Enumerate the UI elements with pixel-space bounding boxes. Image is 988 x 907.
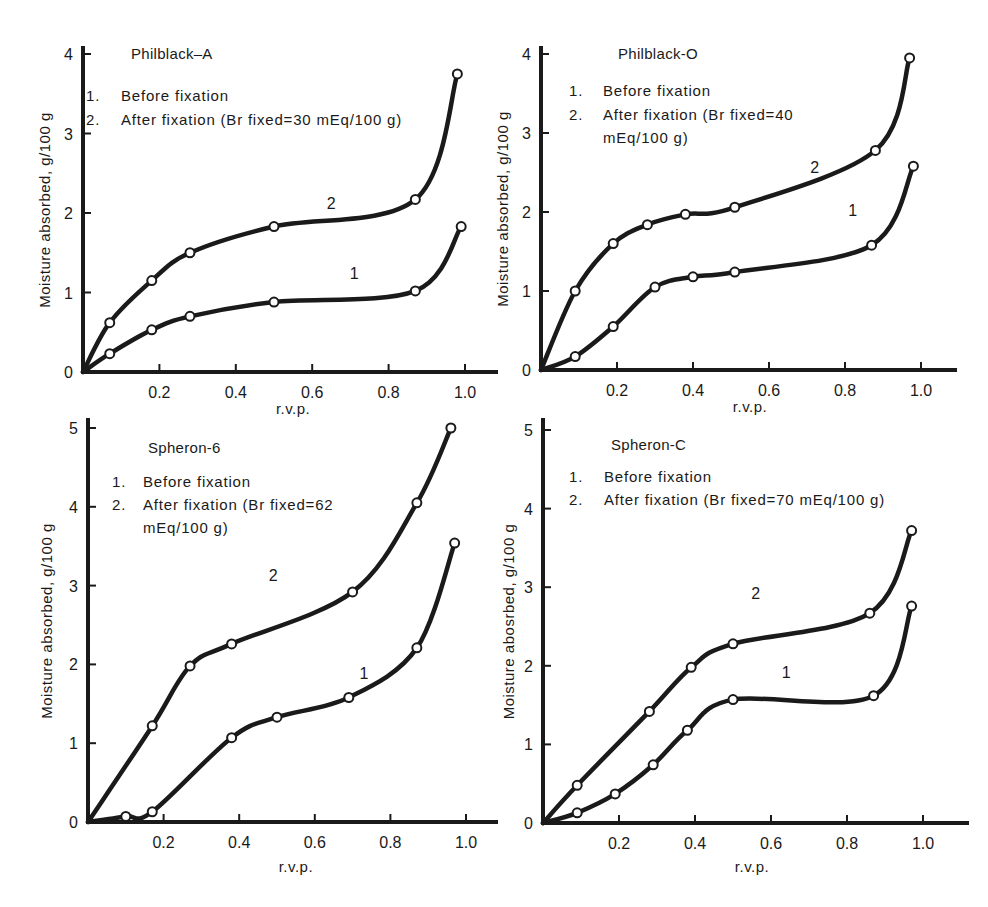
x-axis-label: r.v.p. [735, 858, 769, 875]
x-tick-label: 0.4 [228, 834, 250, 851]
y-tick-label: 4 [522, 46, 531, 63]
data-point-marker [609, 322, 618, 331]
data-point-marker [273, 713, 282, 722]
legend-item-before: Before fixation [143, 473, 251, 490]
x-tick-label: 0.8 [836, 835, 858, 852]
data-point-marker [185, 248, 194, 257]
data-point-marker [105, 349, 114, 358]
legend-item-after: After fixation (Br fixed=40 [603, 106, 793, 123]
legend-item-before: Before fixation [604, 468, 712, 485]
data-point-marker [683, 726, 692, 735]
y-tick-label: 2 [64, 205, 73, 222]
data-point-marker [121, 812, 130, 821]
data-point-marker [909, 162, 918, 171]
data-point-marker [609, 239, 618, 248]
legend-item-after: After fixation (Br fixed=62 [143, 496, 333, 513]
y-tick-label: 0 [69, 814, 78, 831]
y-tick-label: 2 [69, 656, 78, 673]
data-point-marker [453, 69, 462, 78]
curve-label-1: 1 [782, 664, 791, 681]
y-axis-label: Moisture absorbed, g/100 g [494, 111, 511, 307]
legend-number-2: 2. [569, 491, 583, 508]
y-tick-label: 5 [524, 422, 533, 439]
x-tick-label: 0.6 [301, 384, 323, 401]
legend-number-1: 1. [86, 87, 100, 104]
panel-spheron-c: Spheron-C 1. 2. Before fixation After fi… [500, 420, 967, 875]
y-tick-label: 1 [69, 735, 78, 752]
data-point-marker [148, 721, 157, 730]
panel-spheron-6: Spheron-6 1. 2. Before fixation After fi… [38, 420, 496, 875]
data-point-marker [185, 312, 194, 321]
curve-label-1: 1 [848, 202, 857, 219]
y-tick-label: 0 [522, 362, 531, 379]
x-tick-label: 0.4 [684, 835, 706, 852]
x-tick-label: 0.4 [225, 384, 247, 401]
curve-label-1: 1 [350, 265, 359, 282]
y-tick-label: 3 [64, 126, 73, 143]
x-tick-label: 0.8 [834, 382, 856, 399]
x-tick-label: 0.6 [760, 835, 782, 852]
y-tick-label: 1 [64, 285, 73, 302]
legend-number-2: 2. [112, 496, 126, 513]
data-point-marker [611, 789, 620, 798]
x-tick-label: 1.0 [454, 384, 476, 401]
x-tick-label: 0.2 [606, 382, 628, 399]
data-point-marker [730, 268, 739, 277]
data-point-marker [411, 286, 420, 295]
y-tick-label: 2 [522, 204, 531, 221]
curve-label-1: 1 [359, 665, 368, 682]
legend-item-before: Before fixation [121, 87, 229, 104]
data-point-marker [457, 222, 466, 231]
x-tick-label: 0.8 [379, 834, 401, 851]
y-tick-label: 2 [524, 658, 533, 675]
data-point-marker [412, 498, 421, 507]
data-point-marker [227, 733, 236, 742]
data-point-marker [905, 53, 914, 62]
data-point-marker [412, 643, 421, 652]
data-point-marker [907, 602, 916, 611]
y-tick-label: 5 [69, 420, 78, 437]
x-tick-label: 0.2 [608, 835, 630, 852]
panel-philblack-a: Philblack–A 1. 2. Before fixation After … [36, 45, 496, 417]
x-tick-label: 0.8 [377, 384, 399, 401]
panel-title: Philblack-O [618, 45, 698, 62]
data-point-marker [729, 639, 738, 648]
data-point-marker [227, 639, 236, 648]
data-point-marker [446, 424, 455, 433]
data-point-marker [907, 526, 916, 535]
data-point-marker [730, 203, 739, 212]
series-curve-1 [543, 606, 912, 823]
curve-label-2: 2 [269, 567, 278, 584]
y-tick-label: 3 [524, 579, 533, 596]
data-point-marker [105, 318, 114, 327]
y-axis-label: Moisture abosrbed, g/100 g [500, 524, 517, 720]
data-point-marker [643, 220, 652, 229]
x-tick-label: 0.4 [682, 382, 704, 399]
data-point-marker [344, 693, 353, 702]
legend-item-after-cont: mEq/100 g) [603, 129, 689, 146]
y-tick-label: 4 [69, 499, 78, 516]
data-point-marker [348, 587, 357, 596]
data-point-marker [411, 195, 420, 204]
data-point-marker [148, 807, 157, 816]
data-point-marker [270, 298, 279, 307]
panel-title: Philblack–A [131, 45, 213, 62]
x-axis-label: r.v.p. [276, 400, 310, 417]
series-curve-1 [88, 543, 455, 822]
legend-number-2: 2. [86, 111, 100, 128]
data-point-marker [869, 691, 878, 700]
data-point-marker [645, 707, 654, 716]
data-point-marker [689, 272, 698, 281]
x-axis-label: r.v.p. [733, 398, 767, 415]
legend-item-after: After fixation (Br fixed=70 mEq/100 g) [604, 491, 885, 508]
data-point-marker [270, 222, 279, 231]
x-tick-label: 1.0 [910, 382, 932, 399]
legend-number-1: 1. [112, 473, 126, 490]
data-point-marker [147, 325, 156, 334]
legend-number-2: 2. [569, 106, 583, 123]
y-tick-label: 1 [524, 736, 533, 753]
series-curve-2 [543, 531, 912, 823]
data-point-marker [147, 276, 156, 285]
x-tick-label: 1.0 [912, 835, 934, 852]
y-tick-label: 3 [69, 578, 78, 595]
